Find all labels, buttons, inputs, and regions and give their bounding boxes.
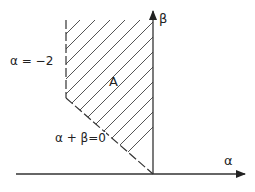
region-label: A: [109, 75, 118, 88]
y-axis-label: β: [159, 12, 167, 25]
x-axis-label: α: [224, 154, 233, 167]
diagram-canvas: [0, 0, 255, 192]
vertical-boundary-label: α = −2: [10, 55, 53, 67]
region-a-hatching: [40, 20, 255, 192]
diagonal-boundary-label: α + β=0: [55, 132, 106, 144]
